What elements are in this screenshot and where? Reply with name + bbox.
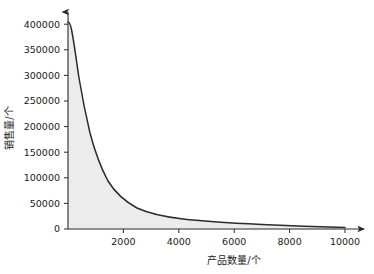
y-tick-label: 200000 bbox=[24, 121, 60, 132]
x-axis-title: 产品数量/个 bbox=[207, 254, 260, 266]
y-tick-label: 350000 bbox=[24, 44, 60, 55]
y-tick-label: 100000 bbox=[24, 172, 60, 183]
x-tick-label: 10000 bbox=[330, 236, 360, 247]
x-tick-label: 2000 bbox=[111, 236, 135, 247]
y-axis-title: 销售量/个 bbox=[3, 106, 15, 149]
x-tick-label: 4000 bbox=[167, 236, 191, 247]
y-tick-label: 250000 bbox=[24, 95, 60, 106]
y-tick-label: 50000 bbox=[30, 198, 60, 209]
y-tick-label: 300000 bbox=[24, 70, 60, 81]
y-tick-labels: 0 50000 100000 150000 200000 250000 3000… bbox=[24, 19, 60, 235]
x-tick-label: 8000 bbox=[278, 236, 302, 247]
chart-container: 0 50000 100000 150000 200000 250000 3000… bbox=[0, 0, 374, 274]
decay-curve-chart: 0 50000 100000 150000 200000 250000 3000… bbox=[0, 0, 374, 274]
y-tick-label: 150000 bbox=[24, 147, 60, 158]
y-tick-label: 400000 bbox=[24, 19, 60, 30]
x-tick-label: 6000 bbox=[222, 236, 246, 247]
y-tick-label: 0 bbox=[54, 223, 60, 234]
